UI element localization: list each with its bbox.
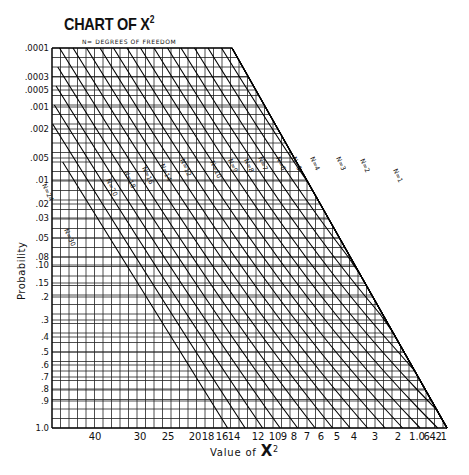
y-tick-label: .005 bbox=[30, 153, 49, 163]
x-tick-label: 30 bbox=[134, 431, 147, 442]
y-tick-label: .03 bbox=[35, 213, 49, 223]
y-tick-label: 1.0 bbox=[35, 423, 49, 433]
y-tick-label: .3 bbox=[41, 315, 49, 325]
y-tick-label: .6 bbox=[41, 360, 49, 370]
x-axis-title-sup: 2 bbox=[273, 445, 279, 454]
x-tick-label: 10 bbox=[269, 431, 282, 442]
curve-label: N=4 bbox=[308, 155, 321, 171]
y-tick-label: .001 bbox=[30, 102, 49, 112]
x-tick-label: 5 bbox=[334, 431, 340, 442]
curve-label: N=10 bbox=[208, 159, 223, 179]
x-tick-label: 14 bbox=[228, 431, 241, 442]
x-axis-title-symbol: X bbox=[261, 442, 273, 460]
y-tick-label: .8 bbox=[41, 384, 49, 394]
curve-label: N=1 bbox=[391, 167, 404, 183]
curve-label: N=16 bbox=[140, 165, 155, 185]
x-tick-label: 8 bbox=[291, 431, 297, 442]
y-axis-title: Probability bbox=[16, 242, 27, 300]
y-tick-label: .002 bbox=[30, 124, 49, 134]
y-tick-label: .2 bbox=[41, 292, 49, 302]
y-tick-label: .0003 bbox=[25, 72, 49, 82]
x-tick-label: 2 bbox=[395, 431, 401, 442]
chi-square-chart: .0001.0003.0005.001.002.005.01.02.03.05.… bbox=[0, 0, 469, 475]
x-tick-label: 25 bbox=[162, 431, 175, 442]
x-tick-label: 9 bbox=[281, 431, 287, 442]
y-tick-label: .02 bbox=[35, 199, 49, 209]
y-tick-label: .0005 bbox=[25, 85, 49, 95]
x-tick-label: 12 bbox=[252, 431, 265, 442]
y-tick-label: .9 bbox=[41, 396, 49, 406]
x-tick-label: .1 bbox=[437, 431, 447, 442]
y-tick-label: .4 bbox=[41, 332, 49, 342]
y-tick-label: .10 bbox=[35, 260, 49, 270]
curve-label: N=5 bbox=[290, 155, 303, 171]
curve-label: N=12 bbox=[178, 157, 193, 177]
x-tick-label: 40 bbox=[89, 431, 102, 442]
x-tick-label: 18 bbox=[202, 431, 215, 442]
y-tick-label: .7 bbox=[41, 372, 49, 382]
y-tick-label: .0001 bbox=[25, 43, 49, 53]
x-tick-label: 3 bbox=[372, 431, 378, 442]
curve-label: N=30 bbox=[62, 227, 77, 247]
curve-label: N=3 bbox=[334, 155, 347, 171]
curve-label: N=18 bbox=[122, 169, 137, 189]
x-tick-label: 20 bbox=[189, 431, 202, 442]
x-tick-label: 6 bbox=[318, 431, 324, 442]
x-tick-label: 7 bbox=[304, 431, 310, 442]
y-tick-label: .5 bbox=[41, 347, 49, 357]
curve-label: N=2 bbox=[358, 157, 371, 173]
x-axis-title-text: Value of bbox=[210, 447, 261, 458]
x-tick-label: 4 bbox=[351, 431, 357, 442]
x-axis-title: Value of X2 bbox=[210, 442, 279, 460]
x-tick-label: 16 bbox=[216, 431, 229, 442]
y-tick-label: .15 bbox=[35, 278, 49, 288]
y-tick-label: .05 bbox=[35, 233, 49, 243]
